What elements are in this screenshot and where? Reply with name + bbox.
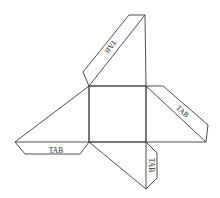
bottom-face — [89, 142, 146, 189]
tab-left-label: TAB — [49, 146, 63, 155]
tab-right-label: TAB — [174, 103, 191, 119]
left-face — [15, 86, 89, 142]
right-face — [146, 86, 206, 142]
net-svg: TABTABTABTAB — [0, 0, 220, 198]
base-square — [89, 86, 146, 142]
tab-top-label: TAB — [103, 38, 119, 55]
top-face — [89, 15, 146, 86]
tab-bottom-label: TAB — [147, 158, 156, 172]
pyramid-net-diagram: TABTABTABTAB — [0, 0, 220, 198]
